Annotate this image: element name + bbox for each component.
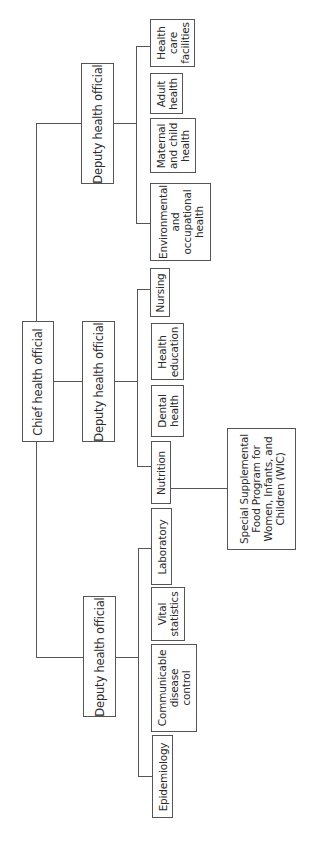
unit-communicable-disease-control: Communicable disease control	[151, 644, 197, 732]
unit-environmental-occupational-health-label: Environmental and occupational health	[157, 185, 205, 259]
unit-nursing-label: Nursing	[154, 273, 166, 312]
unit-nutrition: Nutrition	[151, 441, 171, 504]
deputy-health-official-2-label: Deputy health official	[92, 322, 105, 441]
unit-environmental-occupational-health: Environmental and occupational health	[150, 183, 211, 261]
unit-epidemiology: Epidemiology	[152, 735, 173, 818]
unit-dental-health: Dental health	[151, 385, 184, 437]
unit-adult-health: Adult health	[150, 73, 183, 114]
unit-health-care-facilities-label: Health care facilities	[155, 22, 191, 64]
connector-health-care-facilities	[136, 46, 150, 47]
unit-maternal-child-health: Maternal and child health	[150, 118, 196, 173]
org-chart: Chief health official Deputy health offi…	[0, 0, 310, 849]
deputy-health-official-1-label: Deputy health official	[91, 64, 104, 183]
unit-vital-statistics: Vital statistics	[151, 587, 185, 641]
chief-health-official-label: Chief health official	[32, 328, 45, 435]
unit-health-education: Health education	[151, 323, 184, 380]
unit-maternal-child-health-label: Maternal and child health	[155, 122, 191, 168]
branch-line-deputy-2	[137, 289, 138, 466]
program-wic: Special Supplemental Food Program for Wo…	[227, 428, 296, 550]
connector-laboratory	[138, 548, 151, 549]
connector-deputy-2-branch	[114, 381, 137, 382]
connector-environmental-health	[136, 223, 150, 224]
unit-communicable-disease-control-label: Communicable disease control	[156, 650, 192, 726]
branch-line-deputy-1	[136, 46, 137, 224]
branch-line-deputy-3	[138, 548, 139, 777]
unit-laboratory: Laboratory	[151, 508, 172, 585]
connector-nutrition	[137, 466, 151, 467]
deputy-health-official-3-box: Deputy health official	[83, 596, 116, 717]
unit-nursing: Nursing	[150, 268, 170, 317]
unit-laboratory-label: Laboratory	[156, 519, 168, 574]
unit-nutrition-label: Nutrition	[155, 450, 167, 494]
deputy-health-official-1-box: Deputy health official	[81, 63, 114, 184]
unit-adult-health-label: Adult health	[155, 77, 179, 109]
program-wic-label: Special Supplemental Food Program for Wo…	[238, 434, 286, 544]
unit-epidemiology-label: Epidemiology	[157, 742, 169, 811]
deputy-health-official-2-box: Deputy health official	[82, 321, 115, 442]
deputy-health-official-3-label: Deputy health official	[93, 597, 106, 716]
connector-trunk-deputy-1	[36, 123, 82, 124]
connector-deputy-3-branch	[115, 657, 138, 658]
connector-chief-deputy-2	[53, 381, 82, 382]
unit-health-care-facilities: Health care facilities	[150, 19, 195, 67]
connector-nursing	[137, 289, 151, 290]
connector-deputy-1-branch	[113, 123, 136, 124]
connector-trunk-deputy-3	[36, 657, 83, 658]
connector-nutrition-wic	[170, 488, 227, 489]
unit-health-education-label: Health education	[156, 326, 180, 376]
chief-health-official-box: Chief health official	[22, 321, 54, 442]
unit-dental-health-label: Dental health	[156, 394, 180, 427]
connector-epidemiology	[138, 776, 152, 777]
unit-vital-statistics-label: Vital statistics	[156, 592, 180, 637]
